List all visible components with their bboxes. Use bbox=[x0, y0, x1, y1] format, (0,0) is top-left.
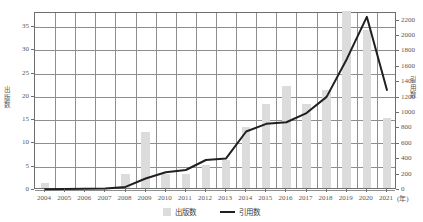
chart-legend: 出版数 引用数 bbox=[0, 206, 423, 217]
x-tick-mark bbox=[265, 189, 266, 192]
x-tick-mark bbox=[84, 189, 85, 192]
y-tick-label-right: 600 bbox=[401, 139, 423, 147]
x-tick-mark bbox=[185, 189, 186, 192]
y-tick-mark-left bbox=[31, 96, 34, 97]
y-tick-label-left: 25 bbox=[7, 69, 29, 77]
y-tick-label-right: 1600 bbox=[401, 62, 423, 70]
y-tick-mark-right bbox=[396, 97, 399, 98]
legend-item-citations: 引用数 bbox=[220, 206, 260, 217]
bar-swatch-icon bbox=[163, 208, 171, 216]
y-tick-mark-right bbox=[396, 189, 399, 190]
y-tick-label-right: 400 bbox=[401, 154, 423, 162]
x-tick-mark bbox=[104, 189, 105, 192]
y-tick-mark-right bbox=[396, 127, 399, 128]
line-series-citations bbox=[35, 13, 397, 190]
y-tick-label-left: 30 bbox=[7, 45, 29, 53]
y-tick-mark-right bbox=[396, 174, 399, 175]
y-tick-label-left: 10 bbox=[7, 138, 29, 146]
x-tick-mark bbox=[245, 189, 246, 192]
y-tick-mark-right bbox=[396, 81, 399, 82]
plot-area bbox=[34, 12, 396, 189]
y-tick-mark-right bbox=[396, 20, 399, 21]
x-tick-mark bbox=[64, 189, 65, 192]
y-tick-label-left: 15 bbox=[7, 115, 29, 123]
y-tick-mark-left bbox=[31, 26, 34, 27]
y-tick-label-right: 0 bbox=[401, 185, 423, 193]
y-tick-mark-left bbox=[31, 142, 34, 143]
y-tick-label-right: 1400 bbox=[401, 77, 423, 85]
legend-label-citations: 引用数 bbox=[239, 206, 260, 217]
y-tick-label-right: 200 bbox=[401, 170, 423, 178]
publication-citation-chart: 出版数 引用数 05101520253035 02004006008001000… bbox=[0, 0, 423, 222]
x-tick-mark bbox=[386, 189, 387, 192]
x-tick-mark bbox=[326, 189, 327, 192]
x-tick-mark bbox=[165, 189, 166, 192]
y-tick-mark-right bbox=[396, 35, 399, 36]
x-tick-mark bbox=[285, 189, 286, 192]
legend-label-publications: 出版数 bbox=[175, 206, 196, 217]
y-tick-label-right: 1200 bbox=[401, 93, 423, 101]
x-axis-unit-label: (年) bbox=[397, 193, 409, 203]
y-tick-mark-left bbox=[31, 73, 34, 74]
x-tick-mark bbox=[366, 189, 367, 192]
y-tick-mark-right bbox=[396, 143, 399, 144]
y-tick-mark-right bbox=[396, 158, 399, 159]
y-tick-mark-left bbox=[31, 166, 34, 167]
y-tick-mark-left bbox=[31, 49, 34, 50]
legend-item-publications: 出版数 bbox=[163, 206, 196, 217]
y-tick-mark-left bbox=[31, 119, 34, 120]
plot-inner bbox=[35, 13, 395, 188]
x-tick-mark bbox=[306, 189, 307, 192]
y-tick-label-right: 2000 bbox=[401, 31, 423, 39]
x-tick-label-2021: 2021 bbox=[373, 194, 399, 202]
gridline-horizontal bbox=[35, 190, 395, 191]
x-tick-mark bbox=[225, 189, 226, 192]
x-tick-mark bbox=[145, 189, 146, 192]
y-tick-label-left: 0 bbox=[7, 185, 29, 193]
y-tick-mark-right bbox=[396, 112, 399, 113]
line-swatch-icon bbox=[220, 211, 235, 213]
x-tick-mark bbox=[205, 189, 206, 192]
x-tick-mark bbox=[44, 189, 45, 192]
y-tick-label-right: 2200 bbox=[401, 16, 423, 24]
y-tick-label-left: 35 bbox=[7, 22, 29, 30]
y-tick-label-right: 1000 bbox=[401, 108, 423, 116]
y-tick-label-right: 1800 bbox=[401, 46, 423, 54]
y-tick-mark-left bbox=[31, 189, 34, 190]
x-tick-mark bbox=[125, 189, 126, 192]
y-tick-mark-right bbox=[396, 50, 399, 51]
citation-line-path bbox=[45, 17, 387, 189]
y-tick-mark-right bbox=[396, 66, 399, 67]
x-tick-mark bbox=[346, 189, 347, 192]
y-tick-label-left: 20 bbox=[7, 92, 29, 100]
y-tick-label-left: 5 bbox=[7, 162, 29, 170]
y-tick-label-right: 800 bbox=[401, 123, 423, 131]
